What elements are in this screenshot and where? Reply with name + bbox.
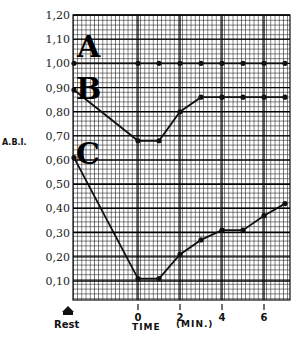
data-point [198, 95, 203, 100]
data-point [198, 237, 203, 242]
data-point [240, 95, 245, 100]
data-point [261, 213, 266, 218]
data-point [71, 61, 76, 66]
x-axis-units: (MIN.) [176, 319, 213, 329]
y-tick-label: 1,00 [46, 57, 71, 70]
data-point [135, 276, 140, 281]
data-point [156, 138, 161, 143]
data-point [198, 61, 203, 66]
series-c-label: C [76, 136, 100, 171]
data-point [282, 61, 287, 66]
data-point [261, 95, 266, 100]
data-point [156, 61, 161, 66]
x-tick-label: 4 [219, 312, 226, 323]
data-point [261, 61, 266, 66]
y-tick-label: 1,20 [46, 9, 71, 22]
data-point [177, 252, 182, 257]
y-tick-label: 0,90 [46, 82, 71, 95]
data-point [219, 61, 224, 66]
data-point [177, 61, 182, 66]
data-point [282, 201, 287, 206]
y-axis-label: A.B.I. [2, 138, 27, 147]
data-point [135, 138, 140, 143]
y-tick-label: 0,30 [46, 227, 71, 240]
data-point [135, 61, 140, 66]
y-tick-label: 0,10 [46, 275, 71, 288]
y-tick-label: 0,20 [46, 251, 71, 264]
data-point [177, 109, 182, 114]
data-point [156, 276, 161, 281]
data-point [240, 61, 245, 66]
y-axis-ticks: 0,100,200,300,400,500,600,700,800,901,00… [46, 9, 71, 288]
data-point [219, 228, 224, 233]
y-tick-label: 0,50 [46, 178, 71, 191]
x-tick-label: 6 [261, 312, 268, 323]
data-point [282, 95, 287, 100]
rest-arrow-icon [62, 306, 74, 315]
abi-line-chart: 0,100,200,300,400,500,600,700,800,901,00… [0, 0, 299, 339]
y-tick-label: 0,70 [46, 130, 71, 143]
series-a-label: A [76, 29, 101, 64]
y-tick-label: 0,40 [46, 202, 71, 215]
y-tick-label: 0,80 [46, 106, 71, 119]
data-point [219, 95, 224, 100]
series-b-label: B [76, 71, 101, 106]
x-axis-label: TIME [132, 322, 161, 332]
y-tick-label: 0,60 [46, 154, 71, 167]
rest-label: Rest [54, 319, 79, 330]
data-point [240, 228, 245, 233]
y-tick-label: 1,10 [46, 33, 71, 46]
